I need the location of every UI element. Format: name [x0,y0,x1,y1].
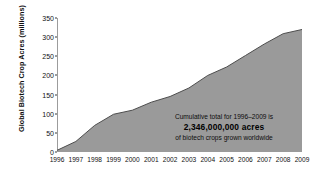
x-tick-label: 2004 [200,156,215,163]
x-tick-label: 1998 [87,156,102,163]
x-tick-label: 2007 [257,156,272,163]
annotation-line-3: of biotech crops grown worldwide [153,133,295,143]
plot-area: 050100150200250300350 199619971998199920… [57,18,302,152]
y-tick-mark [55,37,58,38]
x-tick-label: 1997 [69,156,84,163]
x-tick-label: 2000 [125,156,140,163]
y-tick-label: 100 [32,110,54,117]
x-tick-label: 2002 [163,156,178,163]
y-tick-label: 200 [32,72,54,79]
y-tick-label: 350 [32,15,54,22]
y-tick-mark [55,94,58,95]
x-tick-label: 1996 [50,156,65,163]
chart-figure: Global Biotech Crop Acres (millions) 050… [0,0,320,183]
y-tick-mark [55,18,58,19]
y-tick-mark [55,113,58,114]
x-tick-label: 2001 [144,156,159,163]
y-tick-mark [55,132,58,133]
y-tick-label: 0 [32,149,54,156]
x-tick-label: 2006 [238,156,253,163]
y-tick-label: 250 [32,53,54,60]
y-tick-label: 150 [32,91,54,98]
x-tick-label: 2005 [219,156,234,163]
y-tick-label: 300 [32,34,54,41]
annotation-line-1: Cumulative total for 1996–2009 is [153,112,295,122]
annotation-total-value: 2,346,000,000 acres [153,122,295,133]
x-tick-label: 2008 [276,156,291,163]
y-tick-mark [55,56,58,57]
x-tick-label: 2003 [182,156,197,163]
y-axis-title: Global Biotech Crop Acres (millions) [17,0,26,144]
annotation-callout: Cumulative total for 1996–2009 is 2,346,… [153,112,295,142]
y-tick-mark [55,75,58,76]
y-tick-mark [55,152,58,153]
y-tick-label: 50 [32,129,54,136]
x-tick-label: 1999 [106,156,121,163]
x-tick-label: 2009 [295,156,310,163]
